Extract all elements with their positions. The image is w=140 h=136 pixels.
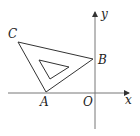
origin-label: O: [83, 95, 93, 109]
point-c-label: C: [8, 27, 17, 41]
point-a-label: A: [39, 95, 49, 109]
inner-triangle-hole: [39, 60, 69, 79]
y-axis-label: y: [100, 7, 108, 21]
coordinate-diagram: C B A O x y: [0, 0, 140, 136]
x-axis-label: x: [125, 93, 132, 107]
outer-triangle-abc: [18, 42, 93, 92]
point-b-label: B: [97, 53, 107, 67]
